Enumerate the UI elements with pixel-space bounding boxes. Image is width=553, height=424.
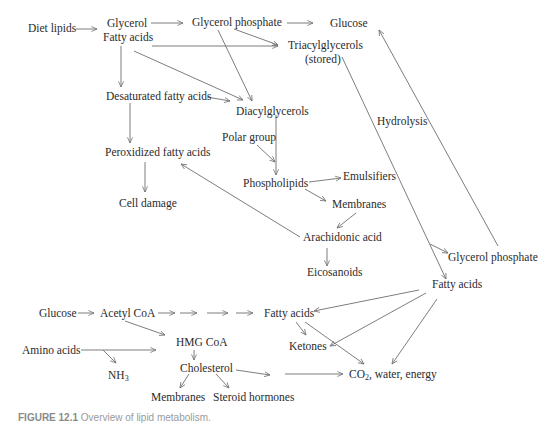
node-arachidonic-acid: Arachidonic acid	[303, 231, 382, 244]
figure-caption: FIGURE 12.1 Overview of lipid metabolism…	[18, 412, 211, 423]
node-nh3: NH3	[108, 369, 129, 385]
caption-label: FIGURE 12.1	[18, 412, 78, 423]
node-eicosanoids: Eicosanoids	[307, 266, 363, 279]
node-glucose-bottom: Glucose	[39, 307, 77, 320]
co2-rest-text: , water, energy	[369, 368, 437, 380]
node-desaturated-fatty-acids: Desaturated fatty acids	[106, 90, 211, 103]
label-hydrolysis: Hydrolysis	[377, 115, 427, 128]
node-glycerol-phosphate-top: Glycerol phosphate	[192, 16, 282, 29]
node-glycerol: Glycerol	[107, 17, 147, 30]
node-amino-acids: Amino acids	[22, 344, 80, 357]
node-stored: (stored)	[305, 53, 341, 66]
node-membranes-mid: Membranes	[332, 198, 386, 211]
node-co2-water-energy: CO2, water, energy	[349, 368, 437, 384]
diagram-arrows	[0, 0, 553, 424]
co2-text: CO	[349, 368, 365, 380]
nh3-text: NH	[108, 369, 125, 381]
node-fatty-acids-top: Fatty acids	[103, 31, 153, 44]
node-steroid-hormones: Steroid hormones	[213, 391, 294, 404]
node-diet-lipids: Diet lipids	[28, 22, 76, 35]
node-ketones: Ketones	[289, 340, 327, 353]
node-triacylglycerols: Triacylglycerols	[288, 39, 363, 52]
node-phospholipids: Phospholipids	[243, 177, 308, 190]
node-emulsifiers: Emulsifiers	[343, 170, 396, 183]
node-glucose-top: Glucose	[330, 17, 368, 30]
lipid-metabolism-diagram: Diet lipids Glycerol Fatty acids Glycero…	[0, 0, 553, 424]
node-cholesterol: Cholesterol	[180, 362, 233, 375]
node-diacylglycerols: Diacylglycerols	[236, 105, 309, 118]
node-cell-damage: Cell damage	[119, 197, 177, 210]
node-hmg-coa: HMG CoA	[176, 336, 227, 349]
node-polar-group: Polar group	[222, 131, 276, 144]
node-acetyl-coa: Acetyl CoA	[100, 307, 155, 320]
node-glycerol-phosphate-right: Glycerol phosphate	[448, 251, 538, 264]
nh3-subscript: 3	[125, 374, 129, 383]
caption-text: Overview of lipid metabolism.	[81, 412, 211, 423]
node-peroxidized-fatty-acids: Peroxidized fatty acids	[105, 146, 210, 159]
node-fatty-acids-bottom: Fatty acids	[264, 307, 314, 320]
node-membranes-bottom: Membranes	[151, 391, 205, 404]
node-fatty-acids-right: Fatty acids	[432, 278, 482, 291]
